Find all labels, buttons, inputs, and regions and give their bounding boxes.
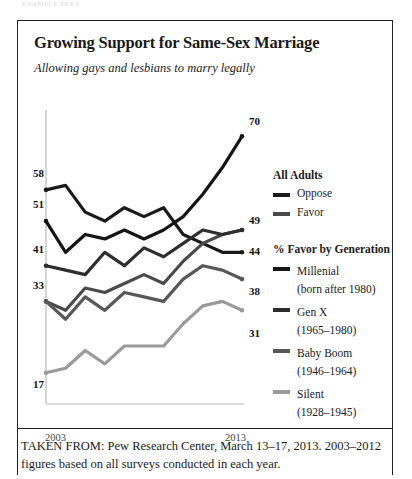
figure-page: EXAMPLE TEXT Growing Support for Same-Se… [0,0,412,479]
legend-item-gen-x[interactable]: Gen X (1965–1980) [273,302,403,338]
legend-text-baby-boom: Baby Boom (1946–1964) [297,343,356,379]
legend-label-millenial: Millenial [297,265,339,277]
legend-text-millenial: Millenial (born after 1980) [297,261,376,297]
figure-frame: Growing Support for Same-Sex Marriage Al… [17,20,393,475]
legend-text-gen-x: Gen X (1965–1980) [297,302,356,338]
data-label-38: 38 [249,285,260,297]
legend-label-silent: Silent [297,388,324,400]
figure-subtitle: Allowing gays and lesbians to marry lega… [34,61,255,76]
legend-label-baby-boom: Baby Boom [297,347,352,359]
legend-swatch-gen-x [273,308,290,312]
line-chart-plot [34,106,256,426]
figure-source-note: TAKEN FROM: Pew Research Center, March 1… [21,438,393,473]
data-label-31: 31 [249,327,260,339]
figure-title: Growing Support for Same-Sex Marriage [34,33,319,53]
data-label-49: 49 [249,214,260,226]
legend-label-oppose: Oppose [297,187,332,201]
legend-swatch-millenial [273,267,290,271]
legend-item-oppose[interactable]: Oppose [273,187,403,201]
legend-swatch-silent [273,390,290,394]
data-label-41: 41 [33,243,44,255]
running-head: EXAMPLE TEXT [22,0,79,8]
legend-item-baby-boom[interactable]: Baby Boom (1946–1964) [273,343,403,379]
legend-label-gen-x: Gen X [297,306,327,318]
data-label-44: 44 [249,245,260,257]
data-label-17: 17 [33,378,44,390]
legend-item-millenial[interactable]: Millenial (born after 1980) [273,261,403,297]
chart-legend: All Adults Oppose Favor % Favor by Gener… [273,169,403,425]
legend-sublabel-silent: (1928–1945) [297,406,356,418]
data-label-70: 70 [249,115,260,127]
legend-text-silent: Silent (1928–1945) [297,384,356,420]
legend-label-favor: Favor [297,206,324,220]
chart-svg [34,106,256,426]
data-label-51: 51 [33,198,44,210]
legend-sublabel-gen-x: (1965–1980) [297,324,356,336]
data-label-58: 58 [33,167,44,179]
legend-sublabel-baby-boom: (1946–1964) [297,365,356,377]
legend-sublabel-millenial: (born after 1980) [297,283,376,295]
legend-swatch-oppose [273,193,290,197]
legend-swatch-favor [273,212,290,216]
legend-swatch-baby-boom [273,349,290,353]
footer-divider [17,428,393,429]
legend-heading-by-generation: % Favor by Generation [273,243,403,255]
legend-item-silent[interactable]: Silent (1928–1945) [273,384,403,420]
legend-item-favor[interactable]: Favor [273,206,403,220]
data-label-33: 33 [33,279,44,291]
legend-heading-all-adults: All Adults [273,169,403,181]
